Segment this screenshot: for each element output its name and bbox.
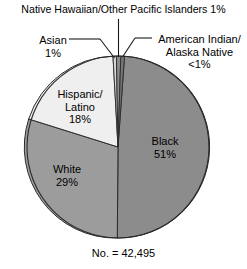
slice-label-aian-line2: Alaska Native xyxy=(152,46,247,59)
slice-label-american-indian-alaska-native: American Indian/ Alaska Native <1% xyxy=(152,33,247,71)
slice-label-aian-line1: American Indian/ xyxy=(152,33,247,46)
slice-label-hispanic-line1: Hispanic/ xyxy=(48,88,112,101)
slice-label-black-value: 51% xyxy=(134,148,196,161)
chart-total-caption: No. = 42,495 xyxy=(0,247,247,260)
pie-chart-figure: Native Hawaiian/Other Pacific Islanders … xyxy=(0,0,247,269)
slice-label-white-name: White xyxy=(36,163,98,176)
leader-line-american-indian-angle xyxy=(123,38,136,57)
slice-label-black-name: Black xyxy=(134,135,196,148)
slice-label-white: White 29% xyxy=(36,163,98,188)
slice-label-black: Black 51% xyxy=(134,135,196,160)
slice-label-asian-value: 1% xyxy=(26,47,80,60)
chart-title-native-hawaiian-pacific-islander: Native Hawaiian/Other Pacific Islanders … xyxy=(0,3,247,16)
slice-label-asian: Asian 1% xyxy=(26,34,80,59)
slice-label-hispanic-line2: Latino xyxy=(48,101,112,114)
leader-line-asian-angle xyxy=(100,39,115,58)
slice-label-hispanic-latino: Hispanic/ Latino 18% xyxy=(48,88,112,126)
slice-label-aian-value: <1% xyxy=(152,58,247,71)
slice-label-white-value: 29% xyxy=(36,176,98,189)
slice-label-asian-name: Asian xyxy=(26,34,80,47)
slice-label-hispanic-value: 18% xyxy=(48,113,112,126)
